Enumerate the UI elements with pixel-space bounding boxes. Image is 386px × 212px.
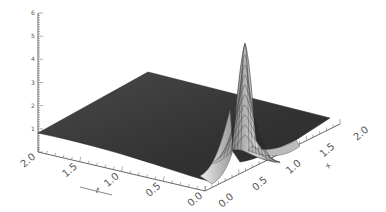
z-axis: 123456 bbox=[31, 9, 43, 152]
z-tick-label: 3 bbox=[31, 79, 35, 86]
left-tick-label: 2.0 bbox=[18, 151, 37, 170]
left-tick-label: 1.0 bbox=[102, 170, 121, 189]
left-tick-label: 0.0 bbox=[185, 190, 204, 209]
right-axis-label: x bbox=[323, 161, 333, 170]
z-tick-label: 5 bbox=[31, 32, 35, 39]
right-tick-label: 1.0 bbox=[284, 157, 303, 176]
right-tick-label: 2.0 bbox=[351, 124, 370, 143]
z-tick-label: 6 bbox=[31, 9, 35, 16]
z-tick-label: 4 bbox=[31, 55, 35, 62]
left-tick-label: 1.5 bbox=[60, 161, 79, 180]
surface bbox=[38, 43, 330, 184]
right-tick-label: 0.0 bbox=[216, 191, 235, 210]
right-tick-label: 1.5 bbox=[317, 141, 336, 160]
left-tick-label: 0.5 bbox=[143, 180, 162, 199]
surface-plot: 123456 2.01.51.00.50.0 t 0.00.51.01.52.0… bbox=[0, 0, 386, 212]
right-tick-label: 0.5 bbox=[250, 174, 269, 193]
z-tick-label: 2 bbox=[31, 102, 35, 109]
z-tick-label: 1 bbox=[31, 125, 35, 132]
